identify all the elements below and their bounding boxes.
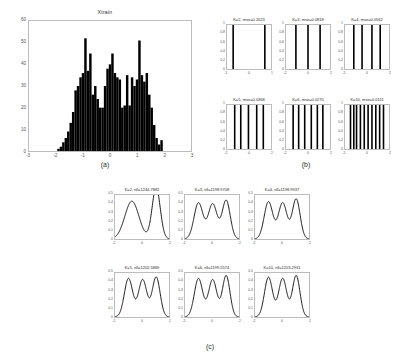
histogram-bar (128, 106, 130, 152)
histogram-bar (160, 140, 162, 151)
gmm-subplot-data (255, 195, 309, 239)
panel-a-histogram: Xtrain 0102030405060 -3-2-10123 (a) (0, 0, 210, 180)
gmm-y-tick-label: 0.3 (104, 211, 113, 214)
gmm-subplot-data (185, 273, 239, 317)
gmm-subplot-axes: K=3, nll=1198.9708 (184, 194, 240, 240)
kmeans-x-tick-label: 1 (267, 72, 277, 75)
histogram-bar (101, 108, 103, 151)
histogram-y-tick-label: 10 (10, 128, 26, 133)
kmeans-y-tick-label: 0.8 (275, 111, 284, 114)
histogram-bar (69, 123, 71, 151)
histogram-bar (82, 73, 84, 151)
kmeans-y-tick-label: 1 (275, 22, 284, 25)
gmm-y-tick-label: 0.5 (104, 192, 113, 195)
histogram-x-tick-label: -3 (21, 154, 35, 159)
histogram-bar (158, 145, 160, 152)
kmeans-y-tick-label: 1 (275, 102, 284, 105)
gmm-subplot-title: K=5, nll=1202.5869 (115, 266, 169, 270)
gmm-x-tick-label: -2 (249, 242, 259, 245)
gmm-subplot-data (185, 195, 239, 239)
histogram-bar (119, 80, 121, 152)
histogram-bars (29, 21, 191, 151)
gmm-y-tick-label: 0.1 (104, 307, 113, 310)
histogram-bar (131, 77, 133, 151)
kmeans-y-tick-label: 0.4 (275, 130, 284, 133)
kmeans-y-tick-label: 0.2 (334, 139, 343, 142)
kmeans-subplot-axes: K=10, mse=0.0111 (344, 104, 390, 150)
histogram-bar (72, 112, 74, 151)
histogram-title: Xtrain (0, 10, 210, 15)
histogram-bar (111, 54, 113, 152)
gmm-subplot-data (255, 273, 309, 317)
histogram-bar (153, 125, 155, 151)
kmeans-y-tick-label: 0.8 (334, 31, 343, 34)
histogram-bar (99, 108, 101, 151)
histogram-bar (57, 149, 59, 151)
histogram-y-tick-label: 40 (10, 62, 26, 67)
kmeans-y-tick-label: 0.6 (275, 121, 284, 124)
kmeans-y-tick-label: 0.8 (216, 111, 225, 114)
gmm-y-tick-label: 0.1 (104, 229, 113, 232)
histogram-x-tick-label: 3 (185, 154, 199, 159)
histogram-bar (116, 77, 118, 151)
histogram-bar (77, 86, 79, 151)
kmeans-y-tick-label: 0.4 (216, 50, 225, 53)
histogram-bar (141, 75, 143, 151)
histogram-bar (67, 132, 69, 152)
kmeans-subplot-title: K=10, mse=0.0111 (345, 98, 389, 102)
gmm-y-tick-label: 0.1 (174, 307, 183, 310)
kmeans-subplot-data (286, 25, 330, 69)
gmm-y-tick-label: 0.5 (244, 192, 253, 195)
kmeans-y-tick-label: 0.6 (334, 121, 343, 124)
kmeans-y-tick-label: 1 (216, 102, 225, 105)
histogram-x-tick-label: 1 (130, 154, 144, 159)
gmm-x-tick-label: -2 (109, 242, 119, 245)
kmeans-y-tick-label: 0.4 (275, 50, 284, 53)
gmm-y-tick-label: 0.4 (244, 201, 253, 204)
gmm-y-tick-label: 0.1 (244, 229, 253, 232)
histogram-bar (121, 108, 123, 151)
gmm-y-tick-label: 0.4 (104, 201, 113, 204)
histogram-bar (94, 86, 96, 151)
histogram-bar (146, 73, 148, 151)
kmeans-y-tick-label: 0.8 (216, 31, 225, 34)
histogram-bar (104, 86, 106, 151)
histogram-bar (126, 75, 128, 151)
gmm-x-tick-label: 0 (207, 320, 217, 323)
kmeans-y-tick-label: 1 (334, 102, 343, 105)
kmeans-subplot-title: K=2, mse=0.2023 (227, 18, 271, 22)
kmeans-x-tick-label: 0 (303, 152, 313, 155)
gmm-y-tick-label: 0.2 (104, 220, 113, 223)
histogram-bar (84, 38, 86, 151)
kmeans-y-tick-label: 0.6 (216, 41, 225, 44)
gmm-x-tick-label: 0 (277, 242, 287, 245)
kmeans-x-tick-label: 2 (267, 152, 277, 155)
histogram-y-tick-label: 20 (10, 106, 26, 111)
gmm-subplot-title: K=2, nll=1244.7882 (115, 188, 169, 192)
panel-b-kmeans: (b) K=2, mse=0.202300.20.40.60.81-101K=3… (212, 0, 400, 180)
gmm-y-tick-label: 0.3 (244, 289, 253, 292)
gmm-y-tick-label: 0.5 (244, 270, 253, 273)
histogram-y-tick-label: 30 (10, 84, 26, 89)
kmeans-y-tick-label: 0.4 (334, 50, 343, 53)
kmeans-subplot-title: K=5, mse=0.0368 (227, 98, 271, 102)
kmeans-subplot-data (345, 105, 389, 149)
histogram-bar (148, 95, 150, 151)
kmeans-x-tick-label: 0 (362, 72, 372, 75)
histogram-bar (136, 80, 138, 152)
histogram-bar (92, 95, 94, 151)
gmm-x-tick-label: 0 (137, 320, 147, 323)
kmeans-subplot-title: K=3, mse=0.0818 (286, 18, 330, 22)
kmeans-x-tick-label: 0 (244, 72, 254, 75)
gmm-x-tick-label: 2 (305, 320, 315, 323)
gmm-density-curve (115, 277, 169, 317)
kmeans-x-tick-label: 2 (385, 72, 395, 75)
histogram-bar (79, 77, 81, 151)
gmm-x-tick-label: 2 (165, 320, 175, 323)
histogram-bar (65, 138, 67, 151)
histogram-axes (28, 20, 192, 152)
gmm-subplot-axes: K=2, nll=1244.7882 (114, 194, 170, 240)
kmeans-x-tick-label: 0 (244, 152, 254, 155)
gmm-subplot-axes: K=10, nll=1203.2931 (254, 272, 310, 318)
histogram-bar (155, 138, 157, 151)
